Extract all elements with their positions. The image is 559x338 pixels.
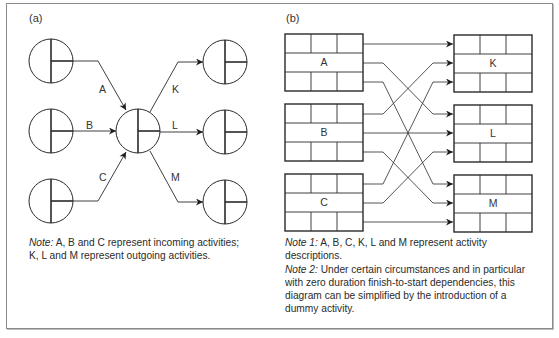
node-circle-incoming-3: [29, 179, 73, 223]
node-circle-outgoing-1: [203, 40, 247, 84]
node-circle-outgoing-3: [203, 180, 247, 224]
box-label-a: A: [320, 56, 327, 68]
panel-a-diagram: [29, 39, 247, 224]
note1-prefix: Note 1:: [285, 237, 318, 248]
arrow-label-a: A: [99, 83, 106, 95]
note2-line-2: with zero duration finish-to-start depen…: [285, 276, 525, 289]
note1-line-1: A, B, C, K, L and M represent activity: [318, 237, 487, 248]
node-circle-central: [116, 109, 160, 153]
dependency-b-k: [363, 63, 453, 114]
note2-prefix: Note 2:: [285, 264, 318, 275]
node-circle-incoming-1: [29, 39, 73, 83]
dependency-c-l: [363, 152, 453, 203]
arrow-label-m: M: [171, 171, 180, 183]
node-circle-incoming-2: [29, 109, 73, 153]
box-label-m: M: [489, 197, 498, 209]
note2-line-3: diagram can be simplified by the introdu…: [285, 289, 525, 302]
box-label-c: C: [320, 196, 328, 208]
box-label-l: L: [490, 127, 496, 139]
note-line-1: A, B and C represent incoming activities…: [53, 237, 239, 248]
note1-line-2: descriptions.: [285, 249, 525, 262]
note2-line-1: Under certain circumstances and in parti…: [318, 264, 525, 275]
note-line-2: K, L and M represent outgoing activities…: [29, 249, 239, 262]
panel-a-note: Note: A, B and C represent incoming acti…: [29, 236, 239, 263]
note2-line-4: dummy activity.: [285, 302, 525, 315]
note-prefix: Note:: [29, 237, 53, 248]
node-circle-outgoing-2: [203, 110, 247, 154]
box-label-k: K: [489, 57, 496, 69]
panel-b-notes: Note 1: A, B, C, K, L and M represent ac…: [285, 236, 525, 316]
box-label-b: B: [320, 126, 327, 138]
arrow-label-k: K: [172, 83, 179, 95]
arrow-label-c: C: [99, 171, 107, 183]
arrow-label-b: B: [86, 119, 93, 131]
arrow-label-l: L: [172, 119, 178, 131]
